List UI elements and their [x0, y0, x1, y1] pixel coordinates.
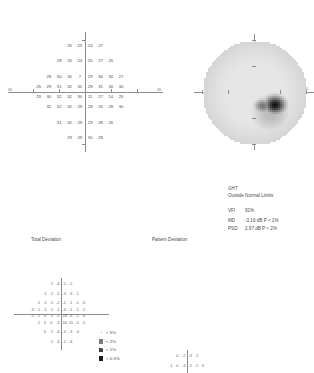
- axis-tick: [137, 89, 138, 93]
- axis-tick: [252, 40, 256, 41]
- sensitivity-value: 26: [108, 59, 113, 63]
- pattern-deviation-value: -1: [169, 365, 172, 369]
- sensitivity-value: 30: [57, 74, 62, 78]
- total-deviation-value: -2: [82, 309, 85, 313]
- sensitivity-value: 30: [67, 74, 72, 78]
- axis-tick: [82, 40, 86, 41]
- total-deviation-value: -3: [82, 303, 85, 307]
- axis-tick: [252, 118, 256, 119]
- total-deviation-value: -18: [62, 315, 67, 319]
- axis-tick: [111, 89, 112, 93]
- md-value: -3.16 dB P < 1%: [245, 218, 279, 223]
- sensitivity-value: 30: [88, 136, 93, 140]
- sensitivity-value: 26: [98, 105, 103, 109]
- sensitivity-value: 29: [77, 105, 82, 109]
- sensitivity-value: 29: [67, 136, 72, 140]
- total-deviation-value: 0: [50, 322, 52, 326]
- total-deviation-value: -1: [50, 309, 53, 313]
- total-deviation-value: -2: [63, 303, 66, 307]
- ght-value: Outside Normal Limits: [228, 193, 273, 198]
- sensitivity-value: 28: [98, 136, 103, 140]
- pattern-deviation-value: -3: [189, 355, 192, 359]
- sensitivity-value: 26: [108, 121, 113, 125]
- total-deviation-value: -1: [50, 315, 53, 319]
- sensitivity-value: 27: [98, 59, 103, 63]
- total-deviation-value: -3: [63, 293, 66, 297]
- pattern-deviation-numeric-plot: 0-2-3-1-10-3-2-20000-1000-1-10000-200-10…: [140, 350, 235, 373]
- sensitivity-value: 27: [98, 43, 103, 47]
- sensitivity-value: 25: [36, 85, 41, 89]
- pattern-deviation-value: -2: [195, 365, 198, 369]
- legend-label: < 0.5%: [106, 356, 120, 361]
- total-deviation-value: 0: [44, 315, 46, 319]
- sensitivity-value: 28: [47, 74, 52, 78]
- axis-tick: [33, 89, 34, 93]
- sensitivity-value: 32: [67, 121, 72, 125]
- total-deviation-value: -1: [56, 309, 59, 313]
- sensitivity-value: 32: [47, 105, 52, 109]
- sensitivity-value: 28: [88, 85, 93, 89]
- sensitivity-value: 32: [67, 95, 72, 99]
- total-deviation-value: -1: [50, 341, 53, 345]
- sensitivity-value: 26: [67, 43, 72, 47]
- legend-swatch-p1: [99, 348, 103, 352]
- axis-tick: [280, 90, 281, 94]
- total-deviation-value: -1: [69, 309, 72, 313]
- pattern-deviation-value: -1: [195, 355, 198, 359]
- sensitivity-value: 28: [88, 105, 93, 109]
- sensitivity-value: 7: [79, 74, 81, 78]
- total-deviation-value: -2: [56, 303, 59, 307]
- psd-label: PSD: [228, 226, 237, 231]
- grayscale-probability-map: 30: [200, 38, 308, 146]
- total-deviation-value: -2: [30, 315, 33, 319]
- total-deviation-value: -1: [43, 303, 46, 307]
- sensitivity-value: 27: [98, 95, 103, 99]
- grayscale-cell: [298, 118, 300, 120]
- sensitivity-value: 25: [119, 95, 124, 99]
- total-deviation-value: -1: [75, 309, 78, 313]
- sensitivity-value: 31: [98, 85, 103, 89]
- total-deviation-value: -3: [56, 341, 59, 345]
- legend-label: < 2%: [106, 339, 116, 344]
- total-deviation-value: -1: [50, 303, 53, 307]
- grayscale-cell: [284, 134, 286, 136]
- pattern-deviation-value: -3: [182, 365, 185, 369]
- legend-swatch-p05: [99, 356, 103, 360]
- vfi-label: VFI: [228, 208, 235, 213]
- total-deviation-value: -2: [63, 341, 66, 345]
- total-deviation-value: -1: [43, 293, 46, 297]
- total-deviation-value: -5: [82, 322, 85, 326]
- sensitivity-value: 28: [98, 121, 103, 125]
- sensitivity-value: 30: [47, 95, 52, 99]
- total-deviation-caption: Total Deviation: [31, 237, 61, 242]
- sensitivity-vertical-axis: [85, 32, 86, 152]
- total-deviation-value: -1: [37, 303, 40, 307]
- total-deviation-value: -3: [69, 293, 72, 297]
- grayscale-cell: [278, 138, 280, 140]
- sensitivity-numeric-plot: 30 30 2623242728262426272628303072930302…: [8, 32, 163, 152]
- axis-tick: [252, 66, 256, 67]
- total-deviation-value: -4: [82, 315, 85, 319]
- grayscale-cell: [294, 124, 296, 126]
- vfi-value: 91%: [245, 208, 254, 213]
- summary-statistics: GHT Outside Normal Limits VFI 91% MD -3.…: [228, 186, 314, 232]
- sensitivity-value: 29: [88, 74, 93, 78]
- total-deviation-value: -1: [75, 315, 78, 319]
- total-deviation-value: -1: [43, 309, 46, 313]
- pattern-deviation-value: 0: [202, 365, 204, 369]
- grayscale-cell: [274, 140, 276, 142]
- grayscale-cell: [302, 112, 304, 114]
- sensitivity-value: 26: [88, 59, 93, 63]
- total-deviation-value: -4: [56, 331, 59, 335]
- axis-tick: [82, 144, 86, 145]
- total-deviation-value: -11: [68, 322, 73, 326]
- sensitivity-value: 29: [88, 121, 93, 125]
- sensitivity-value: 29: [36, 95, 41, 99]
- md-label: MD: [228, 218, 235, 223]
- total-deviation-value: -2: [69, 283, 72, 287]
- sensitivity-value: 32: [67, 105, 72, 109]
- sensitivity-value: 23: [77, 43, 82, 47]
- sensitivity-value: 32: [57, 95, 62, 99]
- sensitivity-value: 11: [88, 95, 92, 99]
- grayscale-cell: [300, 116, 302, 118]
